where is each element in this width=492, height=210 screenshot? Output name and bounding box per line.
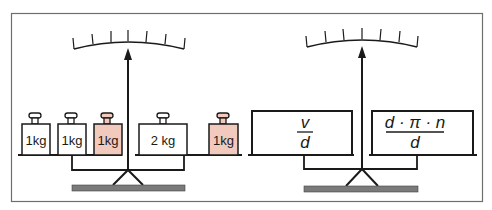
weight-label: 1kg <box>26 133 47 148</box>
weight-label: 2 kg <box>151 133 176 148</box>
pan-box-d-pi-n-over-d: d · π · n d <box>369 111 477 155</box>
fraction-numerator: d · π · n <box>385 113 446 132</box>
fraction-numerator: v <box>301 113 311 132</box>
stand-base <box>304 186 418 192</box>
stand-base <box>72 185 185 191</box>
pointer-arrowhead-icon <box>358 46 366 58</box>
stand-legs <box>346 169 378 186</box>
weight-1kg-b: 1kg <box>58 113 86 155</box>
weight-label: 1kg <box>98 133 119 148</box>
outer-frame <box>12 14 483 202</box>
weight-1kg-a: 1kg <box>22 113 50 155</box>
weight-label: 1kg <box>213 133 234 148</box>
balance-diagram: 1kg 1kg 1kg 2 kg 1kg <box>0 0 492 210</box>
fraction-denominator: d <box>410 133 420 152</box>
weight-label: 1kg <box>62 133 83 148</box>
fraction-denominator: d <box>300 133 310 152</box>
weight-1kg-highlighted-right: 1kg <box>209 113 238 155</box>
pan-support-beam <box>304 155 417 169</box>
weight-2kg: 2 kg <box>139 113 187 155</box>
pointer-arrowhead-icon <box>124 48 132 60</box>
pan-box-v-over-d: v d <box>248 111 354 155</box>
stand-legs <box>113 170 143 185</box>
right-balance-scale: v d d · π · n d <box>248 28 477 192</box>
dial-arc <box>307 40 417 47</box>
dial-arc <box>74 42 184 49</box>
left-balance-scale: 1kg 1kg 1kg 2 kg 1kg <box>18 30 242 191</box>
weight-1kg-highlighted-left: 1kg <box>94 113 122 155</box>
